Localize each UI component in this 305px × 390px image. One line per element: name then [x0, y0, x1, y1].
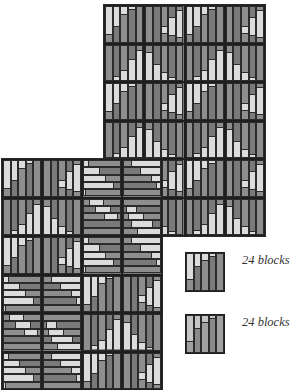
light-segment [71, 368, 80, 373]
strip [249, 45, 257, 82]
strip [201, 199, 209, 236]
light-segment [4, 298, 34, 303]
light-segment [84, 176, 106, 181]
strip [3, 290, 41, 297]
strip [161, 6, 169, 43]
strip [106, 353, 114, 390]
strip [123, 228, 161, 235]
strip [226, 45, 234, 82]
strip [249, 83, 257, 120]
light-segment [162, 226, 168, 234]
strip [123, 167, 161, 174]
strip [3, 321, 41, 328]
light-segment [227, 52, 233, 80]
strip [176, 45, 184, 82]
light-segment [92, 277, 98, 297]
light-segment [227, 129, 233, 157]
light-segment [242, 103, 248, 111]
light-segment [154, 357, 160, 385]
strip [43, 336, 81, 343]
strip [66, 160, 74, 197]
quilt-block [42, 236, 82, 275]
strip [201, 83, 209, 120]
strip [168, 6, 176, 43]
light-segment [104, 214, 118, 219]
strip [43, 374, 81, 381]
quilt-block [42, 198, 82, 237]
strip [83, 182, 121, 189]
light-segment [12, 238, 18, 258]
strip [136, 122, 144, 159]
strip [83, 189, 121, 196]
strip [153, 314, 161, 351]
light-segment [194, 230, 200, 234]
legend-quilt-block [185, 252, 225, 292]
light-segment [209, 7, 215, 10]
light-segment [250, 154, 256, 157]
strip [193, 122, 201, 159]
light-segment [140, 168, 160, 173]
strip [33, 237, 41, 274]
light-segment [131, 238, 160, 243]
quilt-block [225, 159, 265, 198]
strip [153, 83, 161, 120]
strip [176, 160, 184, 197]
strip [3, 360, 41, 367]
light-segment [84, 183, 114, 188]
strip [176, 83, 184, 120]
quilt-block [2, 313, 42, 352]
light-segment [242, 149, 248, 157]
quilt-block [2, 236, 42, 275]
light-segment [169, 17, 175, 36]
light-segment [27, 213, 33, 234]
light-segment [154, 64, 160, 80]
strip [83, 266, 121, 273]
strip [113, 353, 121, 390]
quilt-block [82, 159, 122, 198]
quilt-block [82, 313, 122, 352]
light-segment [67, 248, 73, 267]
light-segment [60, 284, 80, 289]
strip [43, 329, 81, 336]
quilt-block [122, 159, 162, 198]
light-segment [234, 141, 240, 157]
strip [43, 290, 81, 297]
strip [123, 244, 161, 251]
strip [123, 199, 161, 206]
light-segment [194, 153, 200, 157]
light-segment [250, 171, 256, 190]
quilt-block [122, 352, 162, 390]
strip [241, 122, 249, 159]
light-segment [4, 361, 20, 366]
strip [3, 336, 41, 343]
strip [186, 6, 194, 43]
strip [208, 122, 216, 159]
light-segment [107, 329, 113, 350]
strip [3, 283, 41, 290]
strip [146, 276, 154, 313]
strip [123, 314, 131, 351]
strip [249, 122, 257, 159]
strip [66, 237, 74, 274]
quilt-block [144, 44, 184, 83]
strip [153, 45, 161, 82]
light-segment [52, 218, 58, 234]
strip [3, 374, 41, 381]
light-segment [257, 87, 263, 115]
strip [256, 6, 264, 43]
strip [120, 6, 128, 43]
light-segment [162, 180, 168, 188]
strip [186, 315, 194, 353]
strip [73, 160, 81, 197]
strip [113, 122, 121, 159]
strip [83, 237, 121, 244]
strip [43, 353, 81, 360]
strip [123, 266, 161, 273]
light-segment [74, 164, 80, 192]
light-segment [95, 207, 111, 212]
strip [113, 6, 121, 43]
strip [83, 213, 121, 220]
strip [98, 353, 106, 390]
strip [233, 199, 241, 236]
strip [186, 160, 194, 197]
